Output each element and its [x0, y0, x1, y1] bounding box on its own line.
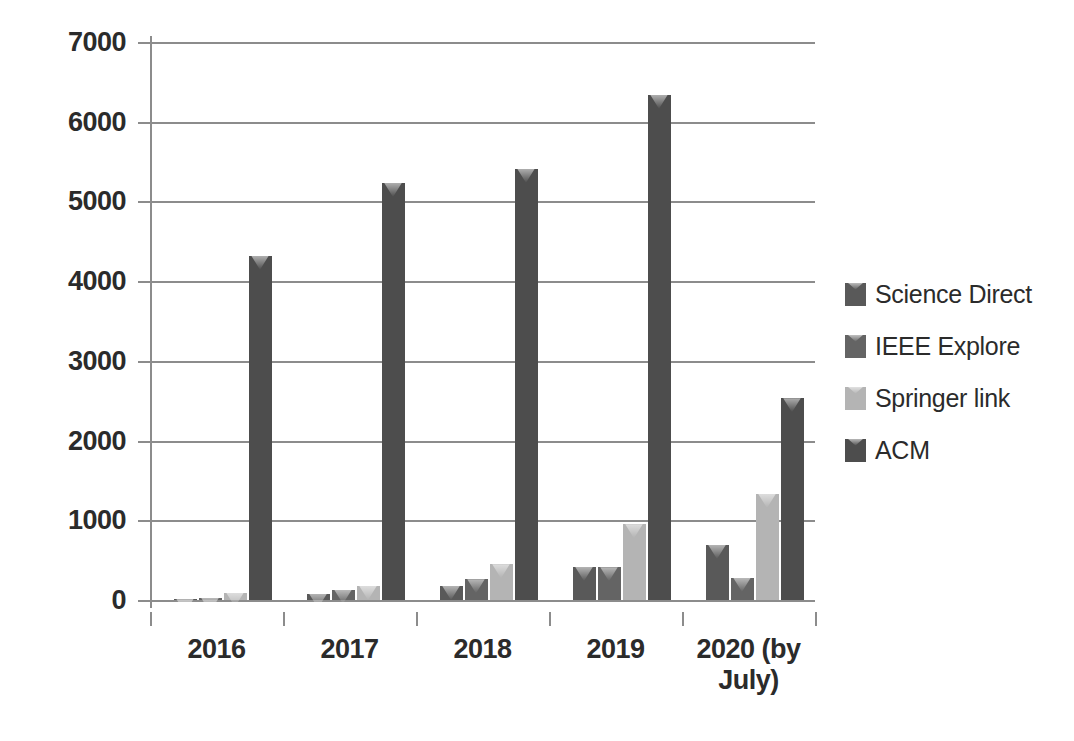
x-axis-tick-mark	[815, 612, 817, 626]
bar[interactable]	[648, 95, 671, 600]
bar-fill	[731, 578, 754, 600]
bar-fill	[573, 567, 596, 600]
bar-group-2018	[440, 42, 538, 600]
y-axis-tick-mark	[138, 520, 150, 522]
bar[interactable]	[440, 586, 463, 600]
bar-fill	[199, 598, 222, 600]
y-axis-tick-mark	[138, 42, 150, 44]
x-axis-category-label: 2018	[416, 634, 549, 665]
x-axis-tick-mark	[283, 612, 285, 626]
bar[interactable]	[357, 586, 380, 600]
x-axis-category-label: 2016	[150, 634, 283, 665]
bar-fill	[465, 579, 488, 600]
y-axis-tick-label: 2000	[26, 427, 126, 454]
legend-item[interactable]: Science Direct	[845, 268, 1070, 320]
bar-group-2020-by-july	[706, 42, 804, 600]
y-axis-tick-labels: 70006000500040003000200010000	[10, 0, 126, 741]
legend-swatch-icon	[845, 335, 866, 358]
bar[interactable]	[174, 599, 197, 600]
bar-chart: 70006000500040003000200010000 2016201720…	[0, 0, 1074, 741]
bar-group-2019	[573, 42, 671, 600]
bar[interactable]	[756, 494, 779, 600]
legend-item[interactable]: Springer link	[845, 372, 1070, 424]
bar[interactable]	[224, 593, 247, 600]
x-axis-category-label: 2017	[283, 634, 416, 665]
bar-fill	[515, 169, 538, 600]
y-axis-tick-mark	[138, 122, 150, 124]
y-axis-tick-label: 0	[26, 587, 126, 614]
x-axis-category-label: 2019	[549, 634, 682, 665]
legend-swatch-icon	[845, 387, 866, 410]
bar-group-2016	[174, 42, 272, 600]
bar-fill	[357, 586, 380, 600]
bar-fill	[648, 95, 671, 600]
bar-fill	[756, 494, 779, 600]
bar[interactable]	[332, 590, 355, 600]
y-axis-tick-mark	[138, 600, 150, 602]
x-axis-tick-mark	[549, 612, 551, 626]
legend-label: Springer link	[875, 384, 1010, 413]
y-axis-tick-label: 5000	[26, 188, 126, 215]
bar[interactable]	[382, 183, 405, 600]
y-axis-tick-label: 4000	[26, 268, 126, 295]
y-axis-tick-label: 1000	[26, 507, 126, 534]
bar[interactable]	[731, 578, 754, 600]
legend-swatch-icon	[845, 439, 866, 462]
bar-fill	[224, 593, 247, 600]
x-axis-tick-labels: 20162017201820192020 (byJuly)	[150, 612, 815, 722]
bar[interactable]	[598, 567, 621, 600]
bar[interactable]	[781, 398, 804, 600]
bar[interactable]	[515, 169, 538, 600]
chart-legend: Science DirectIEEE ExploreSpringer linkA…	[845, 268, 1070, 476]
y-axis-tick-label: 7000	[26, 29, 126, 56]
y-axis-tick-mark	[138, 281, 150, 283]
legend-item[interactable]: ACM	[845, 424, 1070, 476]
bar[interactable]	[490, 564, 513, 600]
bar[interactable]	[249, 256, 272, 600]
y-axis-tick-mark	[138, 361, 150, 363]
bar[interactable]	[465, 579, 488, 600]
bar-fill	[598, 567, 621, 600]
bar-fill	[781, 398, 804, 600]
bar[interactable]	[706, 545, 729, 600]
x-axis-baseline	[150, 600, 815, 602]
bar-group-2017	[307, 42, 405, 600]
legend-swatch-icon	[845, 283, 866, 306]
bar-fill	[706, 545, 729, 600]
x-axis-category-label: 2020 (byJuly)	[682, 634, 815, 696]
bar[interactable]	[573, 567, 596, 600]
bar[interactable]	[307, 594, 330, 600]
x-axis-tick-mark	[416, 612, 418, 626]
legend-item[interactable]: IEEE Explore	[845, 320, 1070, 372]
bar-fill	[174, 599, 197, 600]
y-axis-tick-mark	[138, 441, 150, 443]
x-axis-tick-mark	[682, 612, 684, 626]
plot-area	[150, 42, 815, 600]
y-axis-tick-mark	[138, 201, 150, 203]
x-axis-tick-mark	[150, 612, 152, 626]
bar-fill	[307, 594, 330, 600]
y-axis-tick-label: 3000	[26, 347, 126, 374]
bar-fill	[332, 590, 355, 600]
legend-label: ACM	[875, 436, 930, 465]
bar-fill	[382, 183, 405, 600]
legend-label: IEEE Explore	[875, 332, 1020, 361]
bar-fill	[440, 586, 463, 600]
y-axis-tick-label: 6000	[26, 108, 126, 135]
bar-fill	[490, 564, 513, 600]
bar[interactable]	[623, 524, 646, 600]
bar-fill	[623, 524, 646, 600]
bar[interactable]	[199, 598, 222, 600]
legend-label: Science Direct	[875, 280, 1032, 309]
bar-fill	[249, 256, 272, 600]
